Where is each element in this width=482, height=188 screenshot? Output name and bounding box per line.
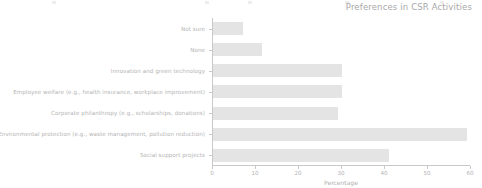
bar-row xyxy=(213,103,470,124)
bar-row xyxy=(213,81,470,102)
x-axis-title: Percentage xyxy=(324,179,358,186)
bar-series xyxy=(213,18,470,166)
bar-none[interactable] xyxy=(213,43,262,56)
x-tick-mark xyxy=(341,166,342,169)
y-tick-label-text: Employee welfare (e.g., health insurance… xyxy=(13,89,205,95)
x-tick-label: 20 xyxy=(294,170,301,176)
chart-title: Preferences in CSR Activities xyxy=(346,2,472,12)
y-tick-label-text: None xyxy=(190,47,205,53)
x-tick-label: 50 xyxy=(423,170,430,176)
bar-row xyxy=(213,124,470,145)
x-tick-mark xyxy=(212,166,213,169)
y-tick-label-4: Corporate philanthropy (e.g., scholarshi… xyxy=(0,103,209,124)
y-tick-label-0: Not sure xyxy=(0,18,209,39)
y-tick-label-5: Environmental protection (e.g., waste ma… xyxy=(0,124,209,145)
y-tick-label-6: Social support projects xyxy=(0,145,209,166)
x-tick-label: 40 xyxy=(380,170,387,176)
y-axis-tick-labels: Not sure None Innovation and green techn… xyxy=(0,18,209,166)
x-tick-mark xyxy=(470,166,471,169)
bar-corporate-philanthropy[interactable] xyxy=(213,107,338,120)
y-tick-label-3: Employee welfare (e.g., health insurance… xyxy=(0,81,209,102)
bar-social-support-projects[interactable] xyxy=(213,149,389,162)
x-axis: Percentage 0102030405060 xyxy=(212,166,470,188)
bar-environmental-protection[interactable] xyxy=(213,128,467,141)
x-tick-label: 0 xyxy=(210,170,214,176)
y-tick-label-text: Innovation and green technology xyxy=(111,68,205,74)
chart-figure: Preferences in CSR Activities Not sure N… xyxy=(0,0,482,188)
bar-not-sure[interactable] xyxy=(213,22,243,35)
bar-innovation-green-technology[interactable] xyxy=(213,64,342,77)
y-tick-label-text: Environmental protection (e.g., waste ma… xyxy=(0,131,205,137)
x-tick-mark xyxy=(427,166,428,169)
x-tick-label: 30 xyxy=(337,170,344,176)
y-tick-label-text: Corporate philanthropy (e.g., scholarshi… xyxy=(51,110,205,116)
plot-area xyxy=(212,18,470,166)
y-tick-label-text: Social support projects xyxy=(140,152,205,158)
y-tick-label-1: None xyxy=(0,39,209,60)
bar-row xyxy=(213,39,470,60)
x-tick-label: 10 xyxy=(251,170,258,176)
x-tick-label: 60 xyxy=(466,170,473,176)
bar-row xyxy=(213,60,470,81)
bar-employee-welfare[interactable] xyxy=(213,85,342,98)
y-tick-label-text: Not sure xyxy=(181,26,205,32)
bar-row xyxy=(213,18,470,39)
x-tick-mark xyxy=(255,166,256,169)
x-tick-mark xyxy=(298,166,299,169)
y-tick-label-2: Innovation and green technology xyxy=(0,60,209,81)
bar-row xyxy=(213,145,470,166)
x-tick-mark xyxy=(384,166,385,169)
